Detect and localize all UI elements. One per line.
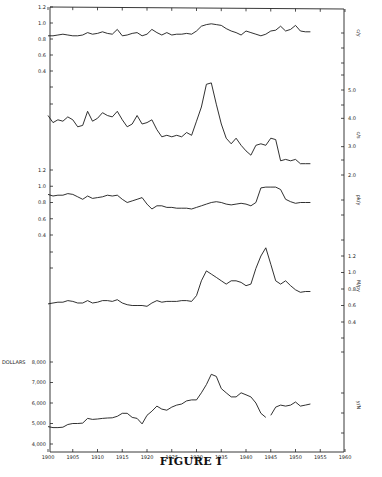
y-axis-title: DOLLARS bbox=[2, 359, 26, 365]
y-tick-label: 0.6 bbox=[38, 216, 46, 222]
series-label: y/N bbox=[355, 401, 362, 410]
y-tick-label: 0.4 bbox=[38, 68, 46, 74]
y-tick-label: 7,000 bbox=[32, 379, 46, 385]
y-tick-label: 0.8 bbox=[348, 286, 356, 292]
y-tick-label: 0.8 bbox=[38, 36, 46, 42]
y-tick-label: 6,000 bbox=[32, 400, 46, 406]
series-label: M/py bbox=[355, 280, 362, 292]
y-tick-label: 3.0 bbox=[348, 143, 356, 149]
y-tick-label: 5,000 bbox=[32, 420, 46, 426]
panels: 1.21.00.80.60.4c/y5.04.03.02.0c/s1.21.00… bbox=[2, 4, 362, 447]
top-axis-line bbox=[50, 7, 344, 9]
y-tick-label: 1.0 bbox=[38, 183, 46, 189]
series-label: c/y bbox=[355, 29, 362, 36]
series-line bbox=[48, 83, 310, 164]
y-tick-label: 2.0 bbox=[348, 172, 356, 178]
y-tick-label: 0.6 bbox=[348, 302, 356, 308]
panel-3: 1.21.00.80.60.4pk/y bbox=[38, 167, 362, 268]
y-tick-label: 1.2 bbox=[348, 253, 356, 259]
y-tick-label: 4,000 bbox=[32, 441, 46, 447]
panel-1: 1.21.00.80.60.4c/y bbox=[38, 4, 362, 104]
y-tick-label: 8,000 bbox=[32, 359, 46, 365]
series-line bbox=[48, 248, 310, 306]
panel-2: 5.04.03.02.0c/s bbox=[48, 33, 362, 178]
y-tick-label: 0.4 bbox=[38, 232, 46, 238]
series-line bbox=[48, 374, 310, 427]
y-tick-label: 1.0 bbox=[348, 269, 356, 275]
figure-caption: FIGURE I bbox=[0, 455, 382, 468]
panel-5: 8,0007,0006,0005,0004,000DOLLARSy/N bbox=[2, 359, 362, 447]
series-label: pk/y bbox=[355, 195, 362, 206]
figure-canvas: 1900190519101915192019251930193519401945… bbox=[0, 0, 382, 477]
y-tick-label: 4.0 bbox=[348, 115, 356, 121]
series-line bbox=[48, 187, 310, 209]
y-tick-label: 1.2 bbox=[38, 167, 46, 173]
y-tick-label: 0.8 bbox=[38, 199, 46, 205]
y-tick-label: 5.0 bbox=[348, 87, 356, 93]
y-tick-label: 0.6 bbox=[38, 52, 46, 58]
plot-frame bbox=[50, 7, 344, 452]
y-tick-label: 0.4 bbox=[348, 319, 356, 325]
panel-4: 1.21.00.80.60.4M/py bbox=[48, 200, 362, 352]
y-tick-label: 1.0 bbox=[38, 20, 46, 26]
x-axis: 1900190519101915192019251930193519401945… bbox=[42, 7, 352, 460]
y-tick-label: 1.2 bbox=[38, 4, 46, 10]
series-line bbox=[48, 24, 310, 36]
series-label: c/s bbox=[356, 131, 362, 138]
